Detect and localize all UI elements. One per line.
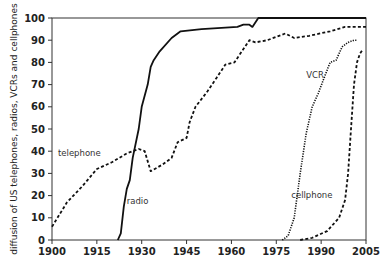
x-tick-label: 1945: [173, 246, 201, 257]
y-tick-label: 10: [31, 212, 45, 223]
plot-border: [52, 18, 366, 240]
y-axis: 0102030405060708090100: [24, 13, 52, 246]
y-tick-label: 90: [31, 35, 45, 46]
x-tick-label: 1990: [307, 246, 335, 257]
series-cellphone-label: cellphone: [291, 190, 332, 200]
x-tick-label: 1900: [38, 246, 66, 257]
y-tick-label: 20: [31, 190, 45, 201]
y-tick-label: 0: [38, 235, 45, 246]
series-vcr-label: VCR: [306, 70, 324, 80]
y-tick-label: 100: [24, 13, 45, 24]
y-axis-title: diffusion of US telephones, radios, VCRs…: [9, 3, 19, 255]
diffusion-chart: 0102030405060708090100 19001915193019451…: [0, 0, 385, 273]
y-tick-label: 80: [31, 57, 45, 68]
series-labels: telephoneradioVCRcellphone: [58, 70, 332, 207]
x-tick-label: 1975: [262, 246, 290, 257]
x-axis: 19001915193019451960197519902005: [38, 240, 380, 257]
x-tick-label: 1915: [83, 246, 111, 257]
series-radio-label: radio: [127, 196, 149, 206]
y-tick-label: 50: [31, 124, 45, 135]
plot-frame: [52, 18, 366, 240]
x-tick-label: 2005: [352, 246, 380, 257]
series-lines: [52, 18, 366, 240]
y-tick-label: 70: [31, 79, 45, 90]
series-telephone-label: telephone: [58, 148, 101, 158]
series-radio-line: [118, 18, 366, 240]
y-tick-label: 40: [31, 146, 45, 157]
x-tick-label: 1930: [128, 246, 156, 257]
y-tick-label: 30: [31, 168, 45, 179]
x-tick-label: 1960: [218, 246, 246, 257]
y-tick-label: 60: [31, 101, 45, 112]
